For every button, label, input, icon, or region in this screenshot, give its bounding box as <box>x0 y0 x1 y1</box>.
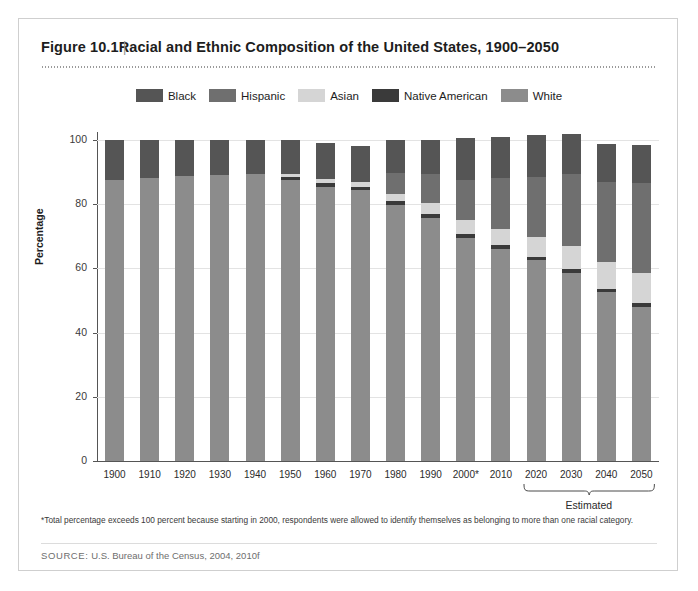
bar-segment-black <box>316 143 335 179</box>
bar-segment-asian <box>281 174 300 177</box>
bar-segment-white <box>527 260 546 461</box>
bar-segment-black <box>386 140 405 173</box>
bar-segment-hispanic <box>386 173 405 194</box>
bar-segment-white <box>140 178 159 461</box>
bar-1930 <box>210 140 229 461</box>
bar-segment-white <box>175 176 194 461</box>
bar-segment-native-american <box>632 303 651 307</box>
bar-1950 <box>281 140 300 461</box>
y-axis-line <box>97 132 98 461</box>
bar-segment-native-american <box>597 289 616 293</box>
bar-segment-white <box>456 238 475 461</box>
bar-segment-white <box>105 180 124 461</box>
y-axis-tick-label: 100 <box>53 133 87 145</box>
bar-segment-asian <box>421 203 440 214</box>
bar-segment-native-american <box>456 234 475 238</box>
bar-2050 <box>632 140 651 461</box>
bar-segment-white <box>351 190 370 461</box>
bar-segment-black <box>351 146 370 182</box>
bar-segment-hispanic <box>632 183 651 273</box>
bar-2040 <box>597 140 616 461</box>
bar-segment-hispanic <box>491 178 510 229</box>
bar-segment-white <box>281 180 300 461</box>
source-label: SOURCE: <box>41 550 88 561</box>
bar-1960 <box>316 140 335 461</box>
bar-segment-white <box>210 175 229 461</box>
bar-segment-native-american <box>316 183 335 186</box>
bar-1900 <box>105 140 124 461</box>
bar-segment-white <box>562 273 581 461</box>
bar-segment-asian <box>386 194 405 201</box>
bar-segment-white <box>386 205 405 461</box>
bar-segment-black <box>140 140 159 178</box>
y-tick-mark <box>93 140 97 141</box>
bar-segment-white <box>246 174 265 461</box>
figure-footnote: *Total percentage exceeds 100 percent be… <box>41 514 653 527</box>
estimated-label: Estimated <box>522 499 656 511</box>
bar-segment-black <box>597 144 616 183</box>
y-tick-mark <box>93 268 97 269</box>
bar-segment-hispanic <box>421 174 440 203</box>
y-tick-mark <box>93 204 97 205</box>
y-tick-mark <box>93 461 97 462</box>
bar-segment-native-american <box>281 177 300 180</box>
bar-2010 <box>491 140 510 461</box>
bar-segment-asian <box>527 237 546 257</box>
bar-segment-asian <box>316 179 335 183</box>
bar-segment-hispanic <box>597 182 616 262</box>
bar-segment-asian <box>632 273 651 303</box>
bar-segment-black <box>632 145 651 184</box>
bar-segment-black <box>175 140 194 176</box>
footnote-divider <box>41 543 657 544</box>
bar-segment-white <box>597 292 616 461</box>
bar-segment-native-american <box>351 187 370 190</box>
bar-segment-native-american <box>491 245 510 249</box>
bar-segment-black <box>105 140 124 180</box>
bar-segment-white <box>632 307 651 461</box>
y-tick-mark <box>93 397 97 398</box>
x-axis-line <box>97 461 659 462</box>
bar-1990 <box>421 140 440 461</box>
bar-segment-white <box>491 249 510 461</box>
bar-1920 <box>175 140 194 461</box>
bar-segment-white <box>421 218 440 461</box>
bar-segment-hispanic <box>562 174 581 246</box>
bar-segment-asian <box>456 220 475 233</box>
bar-segment-black <box>281 140 300 174</box>
y-axis-tick-label: 60 <box>53 261 87 273</box>
y-axis-tick-label: 40 <box>53 326 87 338</box>
bar-segment-black <box>456 138 475 179</box>
bar-1940 <box>246 140 265 461</box>
bar-segment-native-american <box>421 214 440 218</box>
figure-card: Figure 10.1|Racial and Ethnic Compositio… <box>18 18 678 571</box>
y-axis-tick-label: 0 <box>53 454 87 466</box>
bar-segment-black <box>527 135 546 177</box>
bar-segment-native-american <box>562 269 581 273</box>
bar-2020 <box>527 140 546 461</box>
y-axis-tick-label: 80 <box>53 197 87 209</box>
bar-segment-hispanic <box>527 177 546 236</box>
estimated-brace-icon <box>522 483 656 497</box>
bar-segment-black <box>210 140 229 175</box>
y-axis-tick-label: 20 <box>53 390 87 402</box>
bar-1970 <box>351 140 370 461</box>
x-axis-tick-label: 2050 <box>619 469 663 480</box>
y-axis-title: Percentage <box>33 208 45 265</box>
bar-segment-hispanic <box>456 180 475 220</box>
chart-plot-area: Percentage 02040608010019001910192019301… <box>19 19 679 572</box>
bar-segment-asian <box>562 246 581 269</box>
bar-2030 <box>562 140 581 461</box>
bar-segment-native-american <box>386 201 405 205</box>
bar-segment-native-american <box>527 257 546 261</box>
bar-2000 <box>456 140 475 461</box>
bar-segment-black <box>562 134 581 174</box>
bar-segment-asian <box>491 229 510 245</box>
bar-segment-asian <box>351 182 370 187</box>
bar-segment-black <box>246 140 265 174</box>
y-tick-mark <box>93 333 97 334</box>
bar-1910 <box>140 140 159 461</box>
bar-segment-asian <box>597 262 616 289</box>
bar-1980 <box>386 140 405 461</box>
bar-segment-black <box>421 140 440 174</box>
figure-source: SOURCE: U.S. Bureau of the Census, 2004,… <box>41 550 260 561</box>
